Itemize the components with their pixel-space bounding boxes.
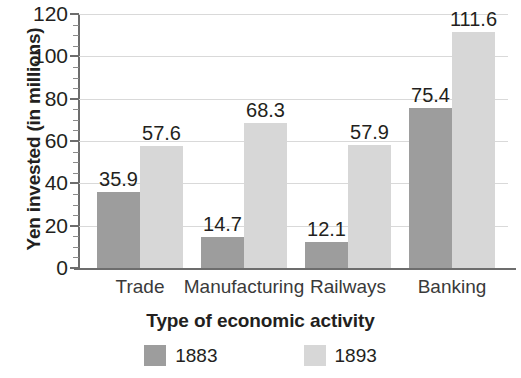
y-axis-minor-tick (73, 88, 79, 89)
y-axis-minor-tick (73, 257, 79, 258)
y-axis-tick-label: 100 (22, 45, 68, 66)
y-axis-minor-tick (73, 236, 79, 237)
bar (409, 108, 452, 268)
legend-item: 1883 (144, 345, 217, 366)
y-axis-minor-tick (73, 109, 79, 110)
y-axis-tick-label: 80 (22, 88, 68, 109)
bar (348, 145, 391, 268)
y-axis-minor-tick (73, 162, 79, 163)
y-axis-tick-label: 20 (22, 215, 68, 236)
y-axis-minor-tick (73, 247, 79, 248)
bar (305, 242, 348, 268)
y-axis-minor-tick (73, 67, 79, 68)
y-axis-major-tick (70, 225, 79, 227)
y-axis-minor-tick (73, 78, 79, 79)
x-axis-title: Type of economic activity (0, 310, 521, 332)
chart-legend: 18831893 (0, 345, 521, 366)
y-axis-tick-labels: 020406080100120 (22, 14, 68, 268)
legend-swatch-1883 (144, 345, 166, 366)
bar (244, 123, 287, 268)
bar-value-label: 57.6 (126, 123, 197, 143)
bar (97, 192, 140, 268)
bar-value-label: 68.3 (230, 100, 301, 120)
y-axis-major-tick (70, 55, 79, 57)
y-axis-tick-label: 60 (22, 130, 68, 151)
legend-item: 1893 (304, 345, 377, 366)
y-axis-minor-tick (73, 130, 79, 131)
y-axis-tick-label: 40 (22, 172, 68, 193)
y-axis-major-tick (70, 267, 79, 269)
y-axis-minor-tick (73, 46, 79, 47)
y-axis-minor-tick (73, 25, 79, 26)
y-axis-minor-tick (73, 173, 79, 174)
y-axis-tick-label: 0 (22, 257, 68, 278)
bar (452, 32, 495, 268)
gridline (78, 56, 508, 57)
y-axis-major-tick (70, 13, 79, 15)
bar-value-label: 111.6 (438, 9, 509, 29)
y-axis-major-tick (70, 98, 79, 100)
bar (201, 237, 244, 268)
y-axis-tick-label: 120 (22, 3, 68, 24)
y-axis-minor-tick (73, 215, 79, 216)
legend-label: 1893 (335, 346, 377, 366)
x-axis-tick-label: Banking (362, 277, 521, 297)
y-axis-minor-tick (73, 120, 79, 121)
legend-label: 1883 (175, 346, 217, 366)
plot-area: 35.957.614.768.312.157.975.4111.6 (78, 14, 508, 268)
legend-swatch-1893 (304, 345, 326, 366)
y-axis-major-tick (70, 182, 79, 184)
x-axis-line (74, 268, 516, 270)
y-axis-minor-tick (73, 194, 79, 195)
bar-chart: Yen invested (in millions) 0204060801001… (0, 0, 521, 378)
y-axis-minor-tick (73, 205, 79, 206)
bar-value-label: 57.9 (334, 122, 405, 142)
bar (140, 146, 183, 268)
y-axis-minor-tick (73, 152, 79, 153)
y-axis-minor-tick (73, 35, 79, 36)
y-axis-major-tick (70, 140, 79, 142)
